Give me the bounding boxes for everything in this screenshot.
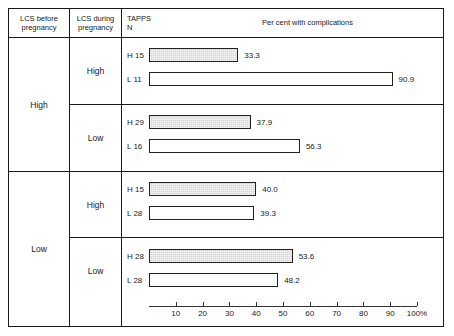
bar-row: L 11 90.9	[122, 70, 443, 88]
bar	[149, 206, 254, 220]
bar-n-label: L 16	[127, 142, 142, 151]
bar-n-label: H 28	[127, 252, 144, 261]
bar	[149, 48, 238, 62]
bar-n-label: L 11	[127, 75, 142, 84]
x-axis-tick-label: 30	[225, 309, 234, 318]
bar	[149, 249, 293, 263]
header-lcs-before-line1: LCS before	[20, 14, 58, 24]
chart-table-figure: LCS before pregnancy LCS during pregnanc…	[0, 0, 454, 336]
bar-n-label: L 28	[127, 276, 142, 285]
x-axis	[149, 306, 417, 307]
bar-value-label: 39.3	[260, 209, 276, 218]
x-axis-tick	[337, 302, 338, 306]
bar-row: L 28 48.2	[122, 271, 443, 289]
x-axis-tick-label: 10	[171, 309, 180, 318]
bar-row: H 28 53.6	[122, 247, 443, 265]
bar-value-label: 33.3	[244, 51, 260, 60]
row-label-sub-3: High	[70, 172, 121, 237]
bar	[149, 273, 278, 287]
bar-row: L 28 39.3	[122, 204, 443, 222]
x-axis-tick	[310, 302, 311, 306]
x-axis-tick	[390, 302, 391, 306]
header-lcs-during-line2: pregnancy	[77, 23, 115, 33]
x-axis-tick-label: 90	[386, 309, 395, 318]
header-lcs-before: LCS before pregnancy	[9, 9, 69, 37]
bar-row: L 16 56.3	[122, 137, 443, 155]
chart-plot-area: H 15 33.3 L 11 90.9 H 29 37.9 L 16 56.3	[122, 38, 443, 326]
bar-row: H 15 33.3	[122, 46, 443, 64]
x-axis-tick	[417, 302, 418, 306]
x-axis-tick-label: 70	[332, 309, 341, 318]
bar-value-label: 48.2	[284, 276, 300, 285]
bar-value-label: 56.3	[306, 142, 322, 151]
bar-n-label: H 15	[127, 185, 144, 194]
row-label-sub-2: Low	[70, 105, 121, 171]
bar-n-label: L 28	[127, 209, 142, 218]
chart-title: Per cent with complications	[172, 9, 443, 37]
bar-row: H 15 40.0	[122, 180, 443, 198]
header-lcs-during: LCS during pregnancy	[70, 9, 121, 37]
x-axis-tick	[203, 302, 204, 306]
bar-value-label: 53.6	[299, 252, 315, 261]
table-frame: LCS before pregnancy LCS during pregnanc…	[8, 8, 444, 327]
x-axis-tick-label: 40	[252, 309, 261, 318]
x-axis-tick	[283, 302, 284, 306]
row-label-major-high: High	[9, 38, 69, 171]
x-axis-tick-label: 20	[198, 309, 207, 318]
x-axis-tick-label: 80	[359, 309, 368, 318]
bar	[149, 72, 393, 86]
x-axis-tick	[176, 302, 177, 306]
bar	[149, 139, 300, 153]
bar-value-label: 90.9	[399, 75, 415, 84]
bar-row: H 29 37.9	[122, 113, 443, 131]
x-axis-tick-label: 50	[279, 309, 288, 318]
header-tapps-line2: N	[127, 23, 154, 33]
row-label-major-low: Low	[9, 172, 69, 326]
row-label-sub-4: Low	[70, 238, 121, 304]
header-tapps-n: TAPPS N	[122, 9, 172, 37]
bar-n-label: H 29	[127, 118, 144, 127]
row-label-sub-1: High	[70, 38, 121, 104]
bar-n-label: H 15	[127, 51, 144, 60]
bar-value-label: 40.0	[262, 185, 278, 194]
bar-value-label: 37.9	[257, 118, 273, 127]
bar	[149, 182, 256, 196]
bar	[149, 115, 251, 129]
x-axis-tick	[256, 302, 257, 306]
header-tapps-line1: TAPPS	[127, 14, 154, 24]
header-lcs-during-line1: LCS during	[77, 14, 115, 24]
x-axis-tick-label: 60	[305, 309, 314, 318]
x-axis-tick	[363, 302, 364, 306]
header-lcs-before-line2: pregnancy	[20, 23, 58, 33]
x-axis-tick-label: 100%	[407, 309, 427, 318]
x-axis-tick	[229, 302, 230, 306]
